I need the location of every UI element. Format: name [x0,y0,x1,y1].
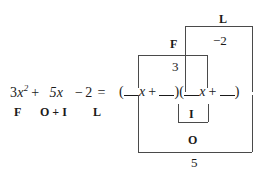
bracket-inner-left-arm [178,104,179,122]
blank-d-constant[interactable] [220,84,235,96]
term-label-last: L [93,106,101,118]
bracket-outer-bottom-rule [138,152,252,153]
bracket-outer-value: 5 [191,156,198,169]
equation-middle-term: 5x [44,85,63,100]
bracket-outer-left-arm [138,95,139,152]
equation-equals: = [92,85,105,100]
bracket-outer-right-arm [252,95,253,152]
bracket-first-right-arm [207,55,208,88]
term-label-first: F [14,106,21,118]
bracket-first-label: F [170,38,177,50]
bracket-first-top-rule [138,55,207,56]
blank-c-coefficient[interactable] [184,84,199,96]
bracket-last-top-rule [185,26,252,27]
bracket-last-left-arm [185,26,186,92]
bracket-inner-bottom-rule [178,122,208,123]
bracket-outer-label: O [188,134,197,146]
blank-b-constant[interactable] [159,84,174,96]
term-label-outer-inner: O + I [40,106,67,118]
bracket-last-right-arm [252,26,253,92]
close-paren-2: ) [235,84,240,99]
bracket-first-value: 3 [172,60,179,73]
bracket-first-left-arm [138,55,139,88]
foil-diagram: 3x2+5x−2= (x+)(x+) F O + I L L −2 F 3 I … [0,0,270,174]
factor-plus-1: + [145,84,159,99]
equation-minus: − [63,85,85,100]
equation-left-side: 3x2+5x−2= [10,84,105,100]
factor-variable-2: x [199,84,205,99]
bracket-last-label: L [219,13,227,25]
bracket-inner-right-arm [208,104,209,122]
bracket-last-value: −2 [213,34,227,47]
bracket-inner-label: I [189,108,194,120]
blank-a-coefficient[interactable] [124,84,139,96]
equation-plus: + [28,85,44,100]
